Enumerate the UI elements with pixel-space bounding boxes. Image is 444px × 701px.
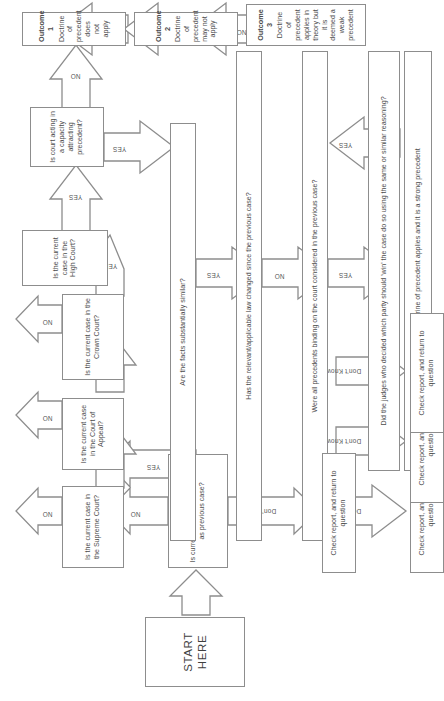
arrow-crown-no: [16, 296, 62, 342]
question-crown-court-label: Is the current case in the Crown Court?: [84, 298, 102, 376]
edge-label-no: NO: [42, 415, 52, 422]
outcome-3-text: Doctrine of precedent applies in theory …: [276, 9, 355, 41]
arrow-supreme-no: [16, 488, 62, 534]
question-facts-similar-label: Are the facts substantially similar?: [179, 127, 188, 537]
question-law-changed[interactable]: Has the relevant/applicable law changed …: [236, 51, 262, 541]
edge-label-yes: YES: [339, 142, 353, 149]
question-court-of-appeal[interactable]: Is the current case in the Court of Appe…: [62, 398, 124, 470]
question-same-reasoning[interactable]: Did the judges who decided which party s…: [368, 51, 400, 471]
check-report-label-1: Check report, and return to question: [330, 457, 348, 569]
question-capacity-label: Is court acting in a capacity attracting…: [49, 111, 84, 163]
outcome-3-box[interactable]: Outcome 3 Doctrine of precedent applies …: [246, 4, 366, 46]
outcome-4-text: Doctrine of precedent applies and it is …: [414, 148, 422, 328]
question-supreme-court[interactable]: Is the current case in the Supreme Court…: [62, 486, 124, 568]
question-crown-court[interactable]: Is the current case in the Crown Court?: [62, 294, 124, 380]
check-report-label-4: Check report, and return to question: [418, 317, 436, 429]
start-here-box[interactable]: START HERE: [145, 617, 245, 687]
question-law-changed-label: Has the relevant/applicable law changed …: [245, 55, 254, 537]
outcome-3-title: Outcome 3: [256, 8, 274, 42]
question-capacity-attracting-precedent[interactable]: Is court acting in a capacity attracting…: [30, 107, 104, 167]
arrow-start-to-same-court: [170, 570, 222, 615]
edge-label-no: NO: [130, 511, 140, 518]
start-here-label: START HERE: [181, 621, 210, 683]
edge-label-dont-know: Don't Know: [326, 438, 361, 445]
edge-label-yes: YES: [113, 146, 127, 153]
edge-label-yes: YES: [207, 272, 221, 279]
outcome-1-text: Doctrine of precedent does not apply: [58, 10, 110, 42]
edge-label-yes: YES: [69, 194, 83, 201]
question-supreme-court-label: Is the current case in the Supreme Court…: [84, 490, 102, 564]
edge-label-no: NO: [70, 73, 80, 80]
question-facts-similar[interactable]: Are the facts substantially similar?: [170, 123, 196, 541]
arrow-coa-no: [16, 392, 62, 438]
edge-label-no: NO: [274, 273, 284, 280]
edge-label-no: NO: [42, 319, 52, 326]
edge-label-dont-know: Don't Know: [326, 368, 361, 375]
question-precedents-binding-label: Were all precedents binding on the court…: [311, 55, 320, 537]
outcome-1-box[interactable]: Outcome 1 Doctrine of precedent does not…: [22, 12, 126, 46]
question-court-of-appeal-label: Is the current case in the Court of Appe…: [80, 402, 107, 466]
outcome-2-text: Doctrine of precedent may not apply: [174, 10, 217, 42]
outcome-2-box[interactable]: Outcome 2 Doctrine of precedent may not …: [134, 12, 238, 46]
edge-label-yes: YES: [339, 272, 353, 279]
check-report-box-4[interactable]: Check report, and return to question: [410, 313, 444, 433]
question-same-reasoning-label: Did the judges who decided which party s…: [380, 55, 389, 467]
edge-label-yes: YES: [147, 464, 161, 471]
check-report-box-1[interactable]: Check report, and return to question: [322, 453, 356, 573]
question-high-court[interactable]: Is the current case in the High Court?: [22, 230, 108, 286]
question-high-court-label: Is the current case in the High Court?: [52, 234, 79, 282]
outcome-1-title: Outcome 1: [37, 16, 55, 42]
edge-label-no: NO: [42, 511, 52, 518]
outcome-2-title: Outcome 2: [154, 16, 172, 42]
